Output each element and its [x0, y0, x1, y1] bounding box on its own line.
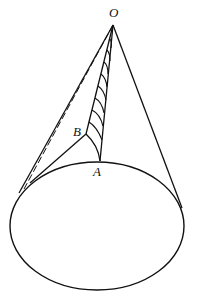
label-a: A	[92, 164, 101, 179]
label-o: O	[109, 5, 119, 20]
arc-ba	[86, 134, 100, 161]
right-generator-line	[113, 25, 182, 208]
hatching	[89, 39, 111, 140]
cone-base-ellipse	[10, 162, 184, 290]
label-b: B	[73, 124, 81, 139]
cone-diagram: O B A	[0, 0, 197, 299]
